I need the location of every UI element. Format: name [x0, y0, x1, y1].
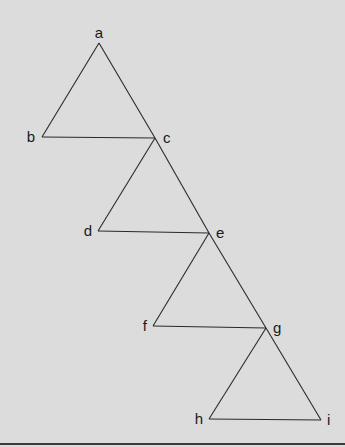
- edge-a-c: [99, 43, 155, 138]
- edge-c-e: [155, 138, 209, 233]
- edge-g-h: [209, 328, 266, 419]
- labels-group: a b c d e f g h i: [27, 24, 331, 428]
- node-label-d: d: [84, 222, 92, 239]
- node-label-c: c: [163, 129, 171, 146]
- node-label-b: b: [27, 128, 35, 145]
- node-label-e: e: [216, 224, 224, 241]
- edge-b-c: [42, 137, 155, 138]
- edge-e-g: [209, 233, 266, 328]
- node-label-f: f: [143, 317, 148, 334]
- node-label-a: a: [95, 24, 104, 41]
- edge-e-f: [153, 233, 209, 326]
- node-label-h: h: [195, 410, 203, 427]
- edge-f-g: [153, 326, 266, 328]
- edge-c-d: [98, 138, 155, 231]
- node-label-i: i: [327, 411, 330, 428]
- triangle-chain-diagram: a b c d e f g h i: [0, 0, 345, 447]
- node-label-g: g: [273, 319, 281, 336]
- bottom-border-rule: [0, 443, 345, 445]
- edge-h-i: [209, 419, 321, 420]
- edge-d-e: [98, 231, 209, 233]
- edge-a-b: [42, 43, 99, 137]
- diagram-canvas: a b c d e f g h i: [0, 0, 345, 447]
- edge-g-i: [266, 328, 321, 420]
